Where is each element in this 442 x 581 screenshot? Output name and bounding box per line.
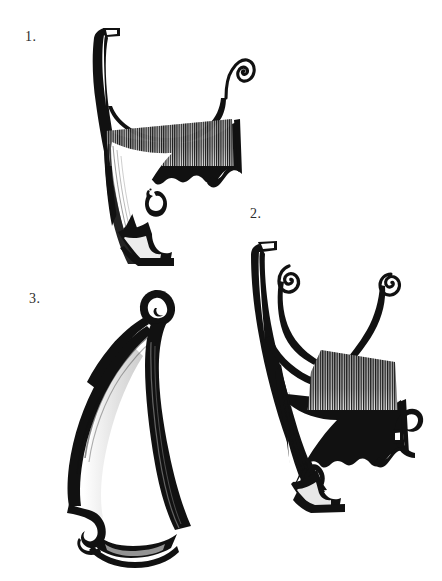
figure-label-3: 3. bbox=[29, 292, 41, 306]
figure-1-volute-scroll bbox=[226, 60, 254, 98]
figure-label-2: 2. bbox=[250, 207, 262, 221]
figure-label-1: 1. bbox=[25, 30, 37, 44]
figure-1-drawing bbox=[62, 26, 247, 276]
figure-3-right-spine bbox=[145, 322, 191, 530]
figure-2-drawing bbox=[243, 232, 433, 512]
figure-3-drawing bbox=[55, 282, 205, 554]
illustration-plate: 1. bbox=[0, 0, 442, 581]
figure-3-foot bbox=[89, 534, 179, 568]
figure-1-waist-hook bbox=[145, 188, 167, 216]
